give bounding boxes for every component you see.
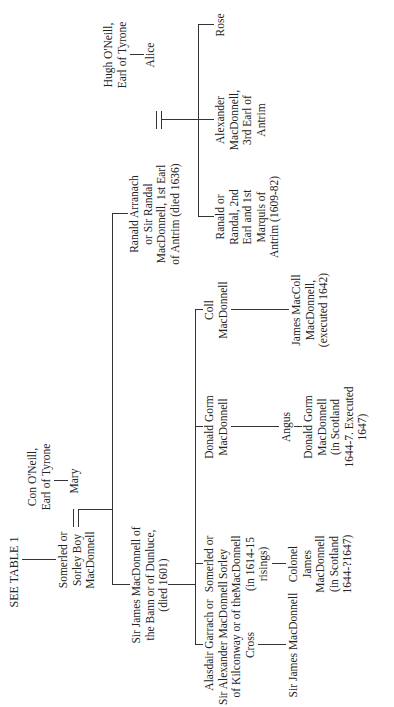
name-line: James MacColl <box>290 265 304 355</box>
marriage-symbol <box>156 111 157 129</box>
connector-line <box>195 644 203 645</box>
connector-line <box>168 584 195 585</box>
name-line: Sir James MacDonnell of <box>130 515 144 655</box>
person-donald-gorm: Donald Gorm MacDonnell <box>203 392 230 462</box>
person-mary: Mary <box>68 461 82 501</box>
connector-line <box>195 563 203 564</box>
connector-line <box>198 24 214 25</box>
marriage-symbol <box>161 111 162 129</box>
name-line: MacDonnell, <box>304 265 318 355</box>
connector-line <box>294 426 302 427</box>
person-ranald-2nd-earl: Ranald or Randal, 2nd Earl and 1st Marqu… <box>214 167 282 267</box>
name-line: Hugh O'Neill, <box>102 15 116 95</box>
connector-line <box>54 480 68 481</box>
person-ranald-1st-earl: Ranald Arranach or Sir Randal MacDonnell… <box>128 149 182 279</box>
name-line: MacDonnell <box>217 392 231 462</box>
person-alexander-3rd-earl: Alexander MacDonnell, 3rd Earl of Antrim <box>214 80 268 160</box>
connector-line <box>161 119 198 120</box>
person-sir-james-dunluce: Sir James MacDonnell of the Bann or of D… <box>130 515 171 655</box>
connector-line <box>112 213 128 214</box>
name-line: Alasdair Garrach or <box>203 585 217 705</box>
person-coll: Coll MacDonnell <box>203 275 230 345</box>
name-line: Sir Alexander MacDonnell <box>217 585 231 705</box>
name-line: Somerled or <box>203 534 217 594</box>
name-line: risings) <box>257 534 271 594</box>
name-line: Colonel <box>287 534 301 594</box>
name-line: Cross <box>244 585 258 705</box>
name-line: Con O'Neill, <box>26 437 40 517</box>
name-line: of Kilconway or of the <box>230 585 244 705</box>
person-james-maccoll: James MacColl MacDonnell, (executed 1642… <box>290 265 331 355</box>
name-line: 1644-7. Executed <box>343 382 357 472</box>
see-table-reference: SEE TABLE 1 <box>8 532 22 612</box>
marriage-symbol <box>73 509 74 527</box>
sibling-bracket <box>112 213 113 585</box>
name-line: Donald Gorm <box>203 392 217 462</box>
name-line: (died 1601) <box>157 515 171 655</box>
name-line: Earl of Tyrone <box>40 437 54 517</box>
person-angus: Angus <box>280 402 294 452</box>
connector-line <box>112 584 130 585</box>
connector-line <box>78 509 112 510</box>
person-con-oneill: Con O'Neill, Earl of Tyrone <box>26 437 53 517</box>
name-line: MacDonnell, <box>228 80 242 160</box>
name-line: Coll <box>203 275 217 345</box>
connector-line <box>258 644 286 645</box>
name-line: Somerled or <box>57 515 71 605</box>
person-somerled-sorley: Somerled or Sorley MacDonnell (in 1614-1… <box>203 534 271 594</box>
person-alasdair-garrach: Alasdair Garrach or Sir Alexander MacDon… <box>203 585 257 705</box>
name-line: MacDonnell <box>316 382 330 472</box>
connector-line <box>195 426 203 427</box>
sibling-bracket <box>198 24 199 217</box>
connector-line <box>22 559 56 560</box>
connector-line <box>195 309 203 310</box>
name-line: 1644-?1647) <box>341 534 355 594</box>
name-line: Alexander <box>214 80 228 160</box>
sibling-bracket <box>195 309 196 645</box>
name-line: the Bann or of Dunluce, <box>144 515 158 655</box>
name-line: Ranald Arranach <box>128 149 142 279</box>
name-line: Marquis of <box>255 167 269 267</box>
name-line: 3rd Earl of <box>241 80 255 160</box>
name-line: (in 1614-15 <box>244 534 258 594</box>
family-tree-diagram: SEE TABLE 1 Somerled or Sorley Boy MacDo… <box>0 0 394 707</box>
person-sir-james-macdonnell: Sir James MacDonnell <box>287 585 301 705</box>
connector-line <box>231 309 289 310</box>
person-colonel-james: Colonel James MacDonnell (in Scotland 16… <box>287 534 355 594</box>
connector-line <box>231 426 279 427</box>
person-somerled-boy: Somerled or Sorley Boy MacDonnell <box>57 515 98 605</box>
connector-line <box>272 563 286 564</box>
name-line: Antrim (1609-82) <box>268 167 282 267</box>
name-line: Antrim <box>255 80 269 160</box>
name-line: (executed 1642) <box>317 265 331 355</box>
name-line: Earl and 1st <box>241 167 255 267</box>
name-line: Donald Gorm <box>302 382 316 472</box>
marriage-symbol <box>78 509 79 527</box>
name-line: James <box>301 534 315 594</box>
person-donald-gorm-younger: Donald Gorm MacDonnell (in Scotland 1644… <box>302 382 370 472</box>
name-line: MacDonnell <box>230 534 244 594</box>
name-line: MacDonnell, 1st Earl <box>155 149 169 279</box>
name-line: (in Scotland <box>328 534 342 594</box>
name-line: MacDonnell <box>217 275 231 345</box>
name-line: of Antrim (died 1636) <box>169 149 183 279</box>
name-line: Earl of Tyrone <box>116 15 130 95</box>
name-line: Sorley Boy <box>71 515 85 605</box>
person-alice: Alice <box>144 35 158 75</box>
connector-line <box>198 119 214 120</box>
name-line: or Sir Randal <box>142 149 156 279</box>
connector-line <box>198 216 214 217</box>
person-hugh-oneill: Hugh O'Neill, Earl of Tyrone <box>102 15 129 95</box>
name-line: MacDonnell <box>84 515 98 605</box>
connector-line <box>130 54 144 55</box>
name-line: MacDonnell <box>314 534 328 594</box>
name-line: Sorley <box>217 534 231 594</box>
name-line: 1647) <box>356 382 370 472</box>
name-line: Ranald or <box>214 167 228 267</box>
name-line: (in Scotland <box>329 382 343 472</box>
name-line: Randal, 2nd <box>228 167 242 267</box>
person-rose: Rose <box>214 5 228 45</box>
